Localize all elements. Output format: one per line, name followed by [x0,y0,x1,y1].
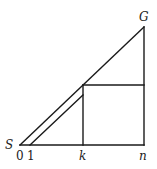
label-x1: 1 [27,149,35,163]
label-xn: n [139,149,147,163]
outer-diagonal [20,27,144,145]
inner-diagonal [30,95,83,145]
label-xk: k [79,149,86,163]
triangle-diagram: S G 0 1 k n [0,0,157,169]
label-start: S [5,138,13,152]
label-goal: G [139,10,149,24]
label-x0: 0 [16,149,24,163]
